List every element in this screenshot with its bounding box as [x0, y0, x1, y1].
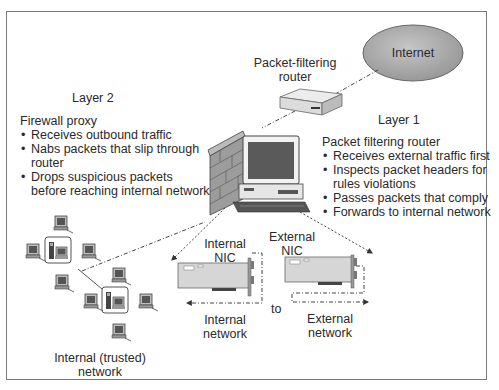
trusted-network-label-line1: Internal (trusted) — [40, 351, 160, 365]
internal-nic-label-line2: NIC — [195, 251, 255, 265]
external-nic-label-line1: External — [262, 230, 322, 244]
external-network-label-line1: External — [295, 312, 365, 326]
layer2-bullet: Receives outbound traffic — [20, 128, 210, 142]
layer2-heading: Firewall proxy — [20, 114, 97, 128]
external-nic-card — [285, 255, 357, 288]
internal-network-label-line1: Internal — [195, 313, 255, 327]
router-label-line2: router — [250, 70, 340, 84]
internal-network-label-line2: network — [195, 327, 255, 341]
layer1-title: Layer 1 — [378, 113, 420, 127]
internal-nic-label-line1: Internal — [195, 237, 255, 251]
layer1-bullet: Passes packets that comply — [322, 191, 491, 205]
layer1-bullet: Receives external traffic first — [322, 149, 491, 163]
layer2-bullet: Drops suspicious packets — [20, 170, 210, 184]
layer2-bullets: Receives outbound traffic Nabs packets t… — [20, 128, 210, 198]
layer2-bullet: Nabs packets that slip through — [20, 142, 210, 156]
layer2-bullet-continuation: before reaching internal network — [20, 184, 210, 198]
external-network-label-line2: network — [295, 326, 365, 340]
internet-label: Internet — [383, 46, 443, 60]
layer2-title: Layer 2 — [72, 91, 114, 105]
layer1-bullets: Receives external traffic first Inspects… — [322, 149, 491, 219]
layer1-bullet: Inspects packet headers for — [322, 163, 491, 177]
layer1-bullet: Forwards to internal network — [322, 205, 491, 219]
layer1-bullet-continuation: rules violations — [322, 177, 491, 191]
layer1-heading: Packet filtering router — [322, 135, 440, 149]
trusted-network-label-line2: network — [40, 365, 160, 379]
to-label: to — [271, 302, 281, 316]
layer2-bullet-continuation: router — [20, 156, 210, 170]
trusted-network-cluster — [26, 216, 158, 341]
router-device — [280, 89, 342, 115]
router-label-line1: Packet-filtering — [250, 56, 340, 70]
firewall-computer — [233, 136, 310, 212]
external-nic-label-line2: NIC — [262, 244, 322, 258]
